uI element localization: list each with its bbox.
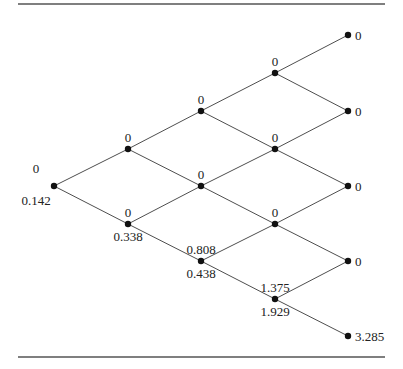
tree-edge [128, 111, 201, 149]
tree-node-n3_1 [272, 146, 278, 152]
tree-node-n4_0 [345, 32, 351, 38]
tree-edge [275, 186, 348, 224]
tree-edge [128, 186, 201, 224]
tree-nodes [51, 32, 351, 339]
tree-edge [275, 224, 348, 261]
node-value-right: 0 [355, 104, 362, 119]
tree-edge [201, 186, 275, 224]
tree-node-n2_1 [198, 183, 204, 189]
node-value-below: 0.438 [186, 266, 215, 281]
node-value-above: 0 [125, 205, 132, 220]
node-value-above: 1.375 [260, 280, 289, 295]
binomial-tree-diagram: 00.142000.338000.8080.4380001.3751.92900… [0, 0, 403, 369]
node-value-above: 0 [272, 54, 279, 69]
node-value-above: 0 [33, 161, 40, 176]
tree-node-n2_2 [198, 258, 204, 264]
node-value-right: 3.285 [355, 329, 384, 344]
tree-edge [201, 73, 275, 111]
node-value-above: 0 [198, 167, 205, 182]
tree-node-n3_2 [272, 221, 278, 227]
tree-node-n1_0 [125, 146, 131, 152]
tree-edge [201, 111, 275, 149]
node-value-below: 0.338 [113, 229, 142, 244]
tree-node-n3_0 [272, 70, 278, 76]
node-value-below: 1.929 [260, 304, 289, 319]
tree-edge [275, 35, 348, 73]
tree-node-n4_3 [345, 258, 351, 264]
node-value-above: 0.808 [186, 242, 215, 257]
node-value-above: 0 [125, 130, 132, 145]
tree-edge [54, 186, 128, 224]
node-value-above: 0 [272, 205, 279, 220]
node-value-right: 0 [355, 254, 362, 269]
tree-edge [275, 111, 348, 149]
tree-node-n4_2 [345, 183, 351, 189]
node-value-above: 0 [272, 130, 279, 145]
tree-node-n3_3 [272, 296, 278, 302]
tree-edge [201, 149, 275, 186]
tree-edge [54, 149, 128, 186]
tree-node-n4_4 [345, 333, 351, 339]
node-value-right: 0 [355, 179, 362, 194]
node-value-right: 0 [355, 28, 362, 43]
tree-edge [128, 149, 201, 186]
tree-node-n0_0 [51, 183, 57, 189]
tree-node-n1_1 [125, 221, 131, 227]
tree-node-n2_0 [198, 108, 204, 114]
node-value-below: 0.142 [21, 193, 50, 208]
node-value-above: 0 [198, 92, 205, 107]
tree-node-n4_1 [345, 108, 351, 114]
tree-edge [275, 73, 348, 111]
tree-edge [275, 149, 348, 186]
